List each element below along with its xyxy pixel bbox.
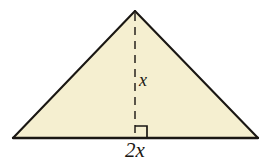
geometry-figure: x 2x bbox=[0, 0, 269, 163]
base-label: 2x bbox=[113, 140, 157, 161]
height-label: x bbox=[139, 71, 147, 89]
